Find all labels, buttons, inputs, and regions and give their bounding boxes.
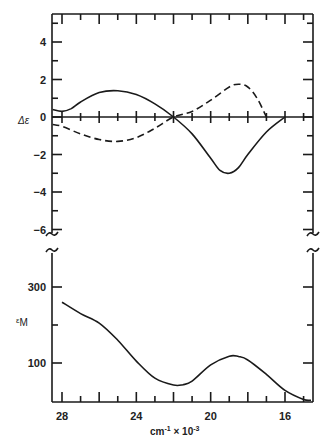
y-tick-label: −6 — [33, 224, 46, 236]
right-axis-break-icon — [307, 248, 319, 252]
cd-curve-solid — [53, 91, 285, 174]
epsilon-m-axis-label: εM — [16, 316, 28, 328]
absorption-curve — [62, 302, 311, 400]
y-tick-label: 4 — [40, 36, 47, 48]
x-axis-label: cm-1 × 10-3 — [150, 425, 200, 437]
left-axis-break-icon — [46, 248, 58, 252]
axis-ticks — [52, 14, 313, 402]
y-tick-label: −2 — [33, 149, 46, 161]
cd-absorption-chart: 28242016420−2−4−6300100 Δε εM cm-1 × 10-… — [0, 0, 331, 444]
y-tick-label: 100 — [28, 357, 46, 369]
y-tick-label: −4 — [33, 186, 46, 198]
y-tick-label: 300 — [28, 281, 46, 293]
x-tick-label: 24 — [130, 410, 143, 422]
delta-epsilon-axis-label: Δε — [17, 115, 30, 126]
data-curves — [53, 84, 311, 400]
y-tick-label: 2 — [40, 74, 46, 86]
x-tick-label: 16 — [279, 410, 291, 422]
cd-curve-dashed — [53, 84, 267, 141]
plot-frame — [46, 14, 319, 402]
x-tick-label: 28 — [56, 410, 68, 422]
x-tick-label: 20 — [205, 410, 217, 422]
axis-tick-labels: 28242016420−2−4−6300100 — [28, 36, 291, 422]
y-tick-label: 0 — [40, 111, 46, 123]
